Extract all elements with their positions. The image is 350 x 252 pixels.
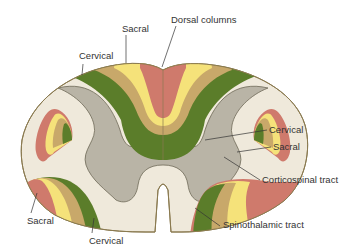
label-dorsal-cervical: Cervical [79,51,113,61]
label-dorsal-sacral: Sacral [122,24,149,34]
label-dorsal-columns: Dorsal columns [171,15,236,25]
label-cst-cervical: Cervical [269,125,303,135]
leader-dorsal-cervical [82,64,83,75]
label-stt-cervical: Cervical [89,236,123,246]
label-stt-sacral: Sacral [27,216,54,226]
leader-dorsal-columns [162,26,176,67]
label-cst-sacral: Sacral [273,142,300,152]
leader-stt-sacral [31,193,37,213]
label-corticospinal-tract: Corticospinal tract [262,175,338,185]
label-spinothalamic-tract: Spinothalamic tract [223,220,304,230]
